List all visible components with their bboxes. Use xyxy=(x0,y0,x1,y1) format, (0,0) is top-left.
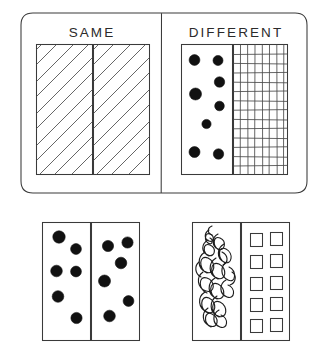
dot xyxy=(215,101,225,111)
dot xyxy=(189,147,200,158)
different-left-cell-border xyxy=(182,45,233,175)
example-left-left-cell-border xyxy=(43,223,91,341)
dot xyxy=(122,237,133,248)
dot xyxy=(71,312,82,323)
small-square xyxy=(251,234,263,247)
small-square xyxy=(251,256,263,269)
small-square xyxy=(251,299,263,312)
same-right-cell-border xyxy=(94,45,150,175)
small-square xyxy=(251,320,263,333)
example-right xyxy=(193,223,290,341)
example-right-left-cell xyxy=(193,223,241,341)
dot xyxy=(52,291,64,303)
example-left-left-cell xyxy=(43,223,91,341)
example-right-right-cell xyxy=(242,223,290,341)
dot xyxy=(53,231,65,243)
different-left-cell xyxy=(182,45,233,175)
dot xyxy=(71,244,82,255)
small-square xyxy=(271,319,283,332)
worksheet-canvas: SAME xyxy=(0,0,327,359)
small-square xyxy=(271,298,283,311)
panel-different-label: DIFFERENT xyxy=(189,25,284,40)
dot xyxy=(115,257,127,269)
small-square xyxy=(271,255,283,268)
dot xyxy=(214,77,224,87)
dot xyxy=(189,55,200,66)
dot xyxy=(104,310,116,322)
dot xyxy=(123,296,134,307)
dot xyxy=(202,119,211,128)
worksheet-page: SAME xyxy=(0,0,327,359)
dot xyxy=(190,88,202,100)
panel-different: DIFFERENT xyxy=(182,25,288,175)
small-square xyxy=(271,233,283,246)
same-left-cell-border xyxy=(37,45,93,175)
small-square xyxy=(251,278,263,291)
different-right-cell xyxy=(234,45,288,175)
example-left xyxy=(43,223,140,341)
dot xyxy=(99,275,111,287)
dot xyxy=(213,56,223,66)
panel-same-label: SAME xyxy=(69,25,116,40)
dot xyxy=(213,149,223,159)
dot xyxy=(51,265,63,277)
dot xyxy=(102,240,113,251)
example-left-right-cell xyxy=(92,223,140,341)
dot xyxy=(71,266,82,277)
panel-same: SAME xyxy=(9,0,162,236)
small-square xyxy=(271,277,283,290)
